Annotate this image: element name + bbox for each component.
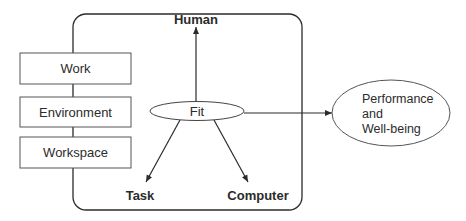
task-label: Task [126, 188, 155, 203]
factor-label: Work [60, 61, 91, 76]
computer-label: Computer [227, 188, 288, 203]
outcome-node: Performance and Well-being [332, 80, 450, 146]
outcome-line-2: and [362, 107, 383, 121]
fit-model-diagram: Work Environment Workspace Fit Human Tas… [0, 0, 466, 221]
human-label: Human [174, 12, 218, 27]
arrow-to-task [146, 120, 180, 182]
fit-node: Fit [150, 102, 244, 121]
factor-box-work: Work [20, 53, 131, 84]
outcome-line-1: Performance [362, 92, 434, 106]
arrow-to-computer [214, 120, 248, 182]
factor-label: Environment [39, 105, 112, 120]
factor-box-environment: Environment [20, 97, 131, 127]
outcome-line-3: Well-being [362, 122, 421, 136]
factor-label: Workspace [43, 145, 108, 160]
factor-box-workspace: Workspace [20, 137, 131, 168]
fit-label: Fit [190, 104, 205, 119]
